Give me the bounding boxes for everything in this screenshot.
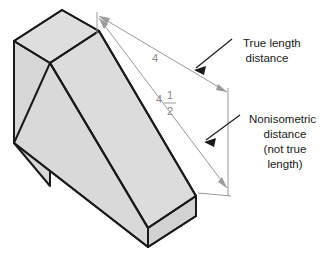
nonisometric-callout-line-3: (not true: [264, 143, 307, 155]
nonisometric-callout-line-1: Nonisometric: [249, 113, 316, 125]
true-length-callout: True length distance: [243, 37, 301, 64]
wedge-block: [14, 10, 196, 247]
dimension-value-true-length: 4: [152, 52, 158, 64]
nonisometric-callout-line-4: length): [267, 158, 302, 170]
arrowhead-leader-nonisometric: [204, 138, 216, 147]
leader-line-nonisometric: [206, 115, 240, 140]
nonisometric-whole-number: 4: [156, 93, 162, 105]
nonisometric-callout-line-2: distance: [264, 128, 307, 140]
true-length-callout-line-1: True length: [243, 37, 301, 49]
nonisometric-callout: Nonisometric distance (not true length): [249, 113, 316, 170]
nonisometric-numerator: 1: [167, 89, 173, 101]
leader-line-true-length: [196, 39, 232, 68]
figure-canvas: 4 4 1 2 True length distance Nonisometri…: [0, 0, 328, 260]
isometric-figure: 4 4 1 2 True length distance Nonisometri…: [0, 0, 328, 260]
nonisometric-denominator: 2: [167, 105, 173, 117]
dimension-value-nonisometric: 4 1 2: [156, 89, 176, 117]
true-length-callout-line-2: distance: [246, 52, 289, 64]
extension-line-lower-right: [198, 193, 231, 196]
arrowhead-true-length-end: [216, 84, 227, 92]
